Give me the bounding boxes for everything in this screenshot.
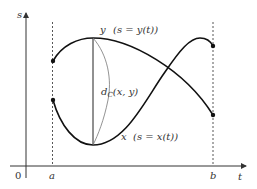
endpoint-x-b [211, 44, 215, 48]
curve-y-name: y [99, 24, 106, 35]
curve-y-annotation: (s = y(t)) [113, 24, 158, 35]
tick-label-a: a [49, 170, 55, 181]
distance-label: dC(x, y) [101, 86, 138, 99]
tick-label-b: b [210, 170, 216, 181]
endpoint-y-a [51, 59, 55, 63]
curve-x-name: x [121, 131, 127, 142]
distance-label-args: (x, y) [113, 86, 139, 97]
endpoint-x-a [51, 98, 55, 102]
origin-label: 0 [15, 170, 21, 181]
s-axis-label: s [17, 9, 22, 20]
endpoint-y-b [211, 113, 215, 117]
curve-x-annotation: (s = x(t)) [133, 131, 178, 142]
t-axis-label: t [238, 171, 243, 182]
diagram-canvas: s t 0 a b y (s = y(t)) x (s = x(t)) dC(x… [0, 0, 257, 189]
curve-y [53, 38, 213, 115]
